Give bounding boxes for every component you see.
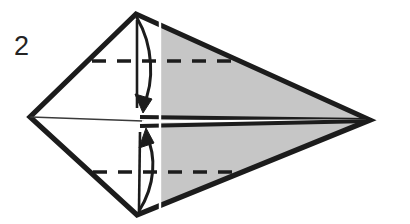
origami-diagram-figure: 2 xyxy=(0,0,410,224)
lower-arrow-base-tick xyxy=(139,132,140,210)
step-number-label: 2 xyxy=(14,31,29,61)
shaded-paper-region xyxy=(136,14,370,215)
origami-diagram-svg xyxy=(0,0,410,224)
